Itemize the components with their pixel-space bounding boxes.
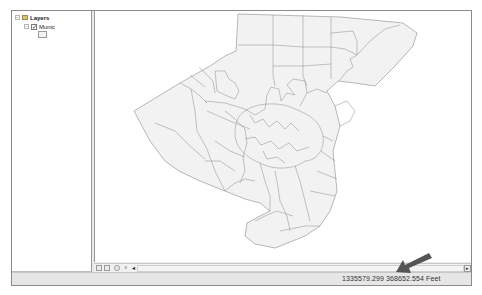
municipalities-map xyxy=(95,11,472,262)
refresh-button[interactable] xyxy=(114,265,120,271)
layout-view-button[interactable] xyxy=(104,265,110,271)
collapse-icon[interactable]: − xyxy=(15,15,20,20)
table-of-contents: − Layers − ✓ Munic xyxy=(12,11,92,272)
layer-label: Munic xyxy=(39,24,55,30)
layers-icon xyxy=(22,15,28,20)
polygon-symbol-swatch[interactable] xyxy=(38,31,47,38)
data-view-button[interactable] xyxy=(96,265,102,271)
layers-root-label: Layers xyxy=(30,15,49,21)
toc-layers-root[interactable]: − Layers xyxy=(15,13,49,22)
scroll-left-button[interactable]: ◂ xyxy=(130,265,136,272)
scroll-right-button[interactable]: ▸ xyxy=(464,265,471,272)
pause-drawing-button[interactable]: ॥ xyxy=(122,265,128,271)
collapse-icon[interactable]: − xyxy=(24,24,29,29)
map-view[interactable] xyxy=(94,11,471,262)
annotation-arrow-icon xyxy=(393,250,433,276)
toc-layer-munic[interactable]: − ✓ Munic xyxy=(24,22,55,31)
layer-visibility-checkbox[interactable]: ✓ xyxy=(31,24,37,30)
cursor-coordinates: 1335579.299 368652.554 Feet xyxy=(342,275,440,282)
